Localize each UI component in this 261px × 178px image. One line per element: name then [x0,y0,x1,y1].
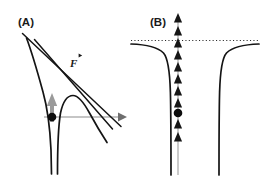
panel-a-particle-dot [48,113,57,122]
figure-container: (A) F (B) [0,0,261,178]
panel-a-label: (A) [18,16,34,28]
panel-b-label: (B) [150,16,166,28]
panel-b-particle-dot [174,109,183,118]
figure-background [0,0,261,178]
force-vector-label: F [69,57,78,69]
figure-canvas: (A) F (B) [0,0,261,178]
